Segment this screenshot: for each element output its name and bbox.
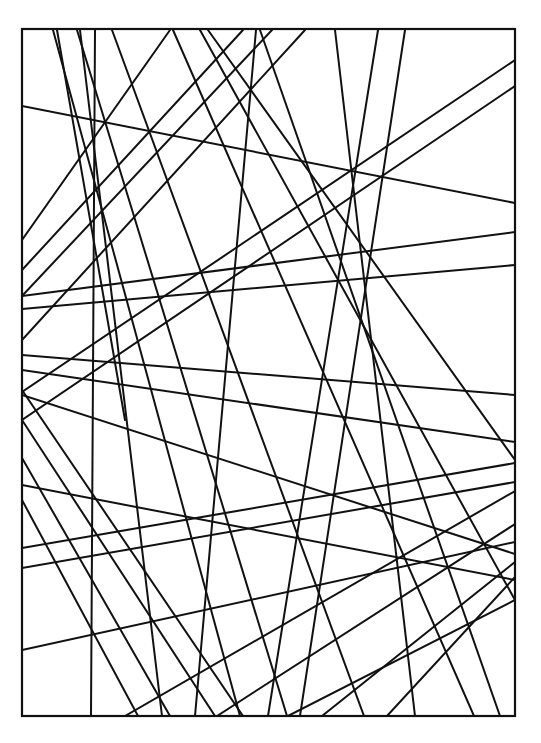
line-35	[288, 600, 515, 716]
line-21	[22, 355, 515, 395]
line-art-canvas	[0, 0, 541, 743]
line-8	[208, 30, 515, 460]
line-22	[22, 370, 515, 442]
line-26	[22, 458, 170, 716]
line-27	[22, 500, 138, 716]
line-28	[22, 463, 515, 548]
line-32	[217, 524, 515, 716]
line-9	[22, 30, 243, 270]
line-38	[200, 30, 515, 600]
intersecting-lines-group	[22, 30, 515, 716]
line-14	[268, 30, 378, 716]
line-31	[125, 491, 515, 716]
line-39	[260, 30, 500, 716]
line-29	[22, 482, 515, 568]
line-23	[22, 395, 515, 554]
rectangle-frame	[22, 29, 515, 716]
line-37	[22, 30, 170, 240]
line-25	[22, 420, 215, 716]
line-17	[22, 60, 515, 392]
